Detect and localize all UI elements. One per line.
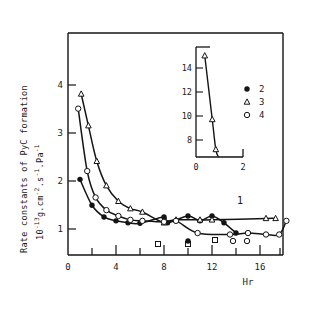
data-point-3 — [273, 215, 279, 220]
y-axis-tick-labels: 4 3 2 1 — [58, 80, 63, 234]
x-tick-label: 4 — [113, 262, 118, 272]
figure-container: Rate constants of PyC formation 10-13g.c… — [0, 0, 315, 310]
inset-y-tick-label: 14 — [182, 63, 192, 73]
data-point-4 — [277, 232, 282, 237]
data-point-4 — [104, 207, 109, 212]
data-point-2 — [221, 220, 226, 225]
x-tick-label: 16 — [255, 262, 266, 272]
series-line-4 — [78, 109, 286, 236]
data-point-4 — [195, 230, 200, 235]
x-axis-tick-labels: 0 4 8 12 16 — [65, 262, 265, 272]
legend-item-4: 4 — [244, 110, 264, 120]
y-tick-label: 2 — [58, 176, 63, 186]
data-point-4 — [284, 218, 289, 223]
data-point-3 — [197, 217, 203, 222]
x-axis-label: Hr — [243, 277, 254, 287]
data-point-4 — [140, 218, 145, 223]
inset-series-line-3 — [205, 56, 219, 157]
inset-data-point-3 — [213, 146, 219, 151]
data-point-4 — [128, 217, 133, 222]
data-point-4 — [76, 106, 81, 111]
data-point-3 — [263, 215, 269, 220]
data-point-4 — [245, 230, 250, 235]
x-tick-label: 0 — [65, 262, 70, 272]
inset-y-tick-label: 10 — [182, 111, 192, 121]
legend-label: 3 — [259, 97, 264, 107]
legend-item-3: 3 — [244, 97, 264, 107]
data-point-3 — [94, 158, 100, 163]
legend-label: 2 — [259, 84, 264, 94]
legend-item-2: 2 — [244, 84, 264, 94]
data-point-4 — [93, 195, 98, 200]
y-axis-label-line2: 10-13g.cm-2.s-1.Pa-1 — [35, 144, 45, 240]
inset-x-tick-label: 2 — [240, 162, 245, 172]
data-point-4 — [227, 232, 232, 237]
x-tick-label: 8 — [161, 262, 166, 272]
data-point-4 — [173, 218, 178, 223]
inset-y-tick-label: 8 — [187, 135, 192, 145]
curve-annotation-1: 1 — [237, 195, 243, 206]
legend: 2 3 4 — [244, 84, 264, 120]
data-point-3 — [78, 91, 84, 96]
inset-y-tick-label: 12 — [182, 87, 192, 97]
y-tick-label: 1 — [58, 224, 63, 234]
legend-label: 4 — [259, 110, 264, 120]
inset-x-tick-label: 0 — [193, 162, 198, 172]
data-point-2 — [233, 230, 238, 235]
data-point-2 — [89, 203, 94, 208]
data-point-4 — [85, 168, 90, 173]
y-tick-label: 3 — [58, 128, 63, 138]
data-point-2 — [185, 213, 190, 218]
inset-data-curves — [205, 56, 219, 157]
inset-axes-frame — [196, 47, 243, 157]
scatter-below-plateau — [156, 238, 250, 247]
data-point-2 — [101, 214, 106, 219]
chart-svg: 4 3 2 1 0 4 8 12 16 Hr 1 — [0, 0, 315, 310]
inset-y-tick-labels: 14 12 10 8 — [182, 63, 192, 145]
data-point-4 — [263, 232, 268, 237]
inset-data-point-3 — [202, 53, 208, 58]
inset-x-tick-labels: 0 2 — [193, 162, 245, 172]
y-tick-label: 4 — [58, 80, 63, 90]
data-point-4 — [161, 219, 166, 224]
data-point-2 — [77, 177, 82, 182]
inset-data-point-3 — [209, 116, 215, 121]
inset-y-ticks — [196, 68, 203, 140]
y-axis-label-line1: Rate constants of PyC formation — [19, 85, 29, 253]
data-point-3 — [128, 206, 134, 211]
data-point-3 — [86, 123, 92, 128]
data-point-3 — [140, 209, 146, 214]
x-tick-label: 12 — [207, 262, 218, 272]
data-point-4 — [116, 213, 121, 218]
y-axis-ticks — [68, 85, 76, 229]
